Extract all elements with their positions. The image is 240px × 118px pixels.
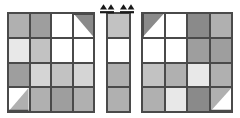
patch-cell xyxy=(8,13,30,38)
patch-cell xyxy=(30,13,52,38)
patch-cell xyxy=(107,38,130,63)
patch-cell xyxy=(107,63,130,88)
patch-cell xyxy=(51,38,73,63)
patch-cell xyxy=(73,13,95,38)
patch-cell xyxy=(51,87,73,112)
center-sashing-strip xyxy=(106,12,131,113)
patch-cell xyxy=(165,87,188,112)
patch-cell xyxy=(30,63,52,88)
patch-cell xyxy=(187,38,210,63)
patch-cell xyxy=(210,38,233,63)
patch-cell xyxy=(187,13,210,38)
patch-cell xyxy=(142,87,165,112)
patch-cell xyxy=(30,38,52,63)
patch-cell xyxy=(142,38,165,63)
patch-cell xyxy=(51,13,73,38)
patch-cell xyxy=(210,87,233,112)
patch-cell xyxy=(8,63,30,88)
patch-cell xyxy=(165,38,188,63)
patch-cell xyxy=(8,38,30,63)
alignment-arrows-group xyxy=(99,0,139,12)
patch-cell xyxy=(187,87,210,112)
patch-cell xyxy=(142,13,165,38)
patch-cell xyxy=(8,87,30,112)
patch-cell xyxy=(165,63,188,88)
patch-cell xyxy=(30,87,52,112)
patch-cell xyxy=(107,87,130,112)
patch-cell xyxy=(73,87,95,112)
patch-cell xyxy=(210,13,233,38)
seam-alignment-arrow-icon xyxy=(99,0,115,11)
patch-cell xyxy=(107,13,130,38)
patch-cell xyxy=(73,63,95,88)
patch-cell xyxy=(210,63,233,88)
seam-alignment-arrow-icon xyxy=(119,0,135,11)
right-block xyxy=(141,12,233,113)
patch-cell xyxy=(165,13,188,38)
quilt-block-diagram xyxy=(0,0,240,118)
patch-cell xyxy=(142,63,165,88)
patch-cell xyxy=(73,38,95,63)
left-block xyxy=(7,12,95,113)
patch-cell xyxy=(51,63,73,88)
patch-cell xyxy=(187,63,210,88)
